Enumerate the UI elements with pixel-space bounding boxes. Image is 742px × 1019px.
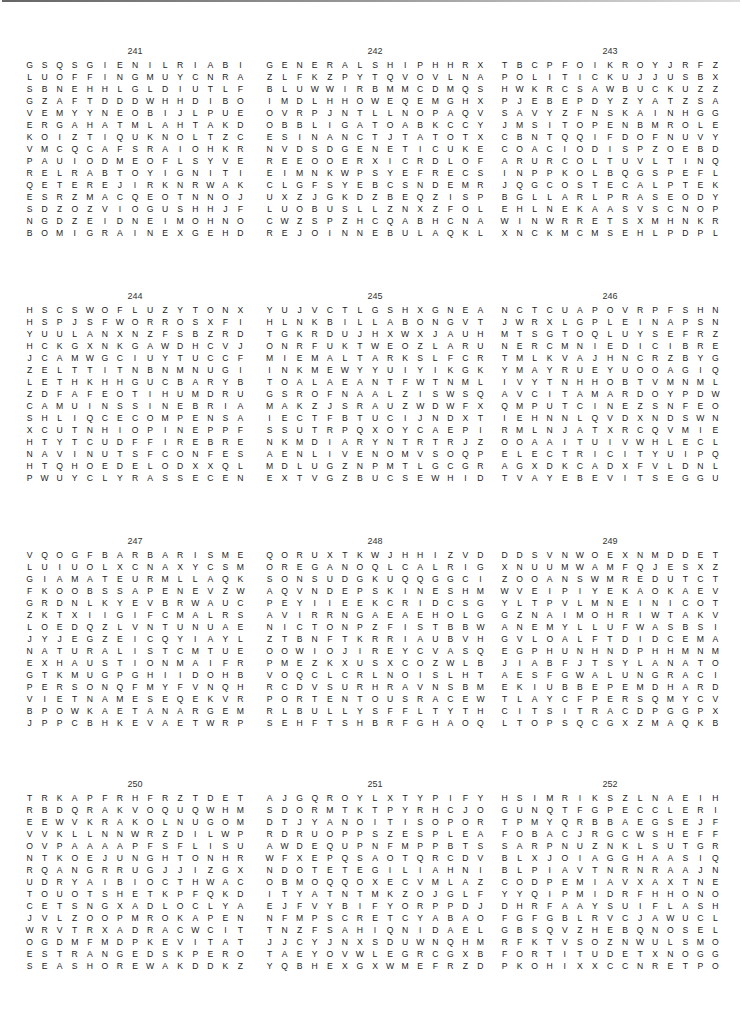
grid-letter: E xyxy=(557,876,572,888)
grid-letter: P xyxy=(557,585,572,597)
grid-letter: Z xyxy=(473,876,488,888)
grid-letter: U xyxy=(618,328,633,340)
grid-letter: T xyxy=(602,155,617,167)
grid-letter: G xyxy=(512,912,527,924)
grid-letter: E xyxy=(458,924,473,936)
grid-letter: U xyxy=(218,645,233,657)
grid-letter: O xyxy=(428,816,443,828)
grid-letter: I xyxy=(262,364,277,376)
grid-letter: I xyxy=(203,840,218,852)
grid-letter: U xyxy=(233,388,248,400)
grid-letter: S xyxy=(218,561,233,573)
grid-letter: I xyxy=(398,59,413,71)
grid-letter: J xyxy=(173,864,188,876)
grid-letter: G xyxy=(22,669,37,681)
grid-letter: L xyxy=(458,609,473,621)
grid-letter: T xyxy=(203,936,218,948)
grid-letter: U xyxy=(173,804,188,816)
grid-letter: Y xyxy=(512,888,527,900)
grid-letter: S xyxy=(277,131,292,143)
grid-letter: V xyxy=(307,900,322,912)
grid-letter: S xyxy=(497,840,512,852)
grid-letter: W xyxy=(473,621,488,633)
grid-letter: Z xyxy=(337,215,352,227)
grid-letter: E xyxy=(22,816,37,828)
grid-letter: F xyxy=(367,900,382,912)
grid-letter: D xyxy=(648,633,663,645)
grid-letter: V xyxy=(37,840,52,852)
grid-letter: M xyxy=(512,119,527,131)
grid-letter: X xyxy=(473,131,488,143)
grid-letter: Z xyxy=(22,388,37,400)
grid-letter: N xyxy=(292,573,307,585)
grid-letter: S xyxy=(648,167,663,179)
grid-letter: I xyxy=(633,597,648,609)
grid-letter: T xyxy=(663,95,678,107)
grid-letter: Z xyxy=(37,95,52,107)
grid-letter: W xyxy=(158,340,173,352)
grid-letter: A xyxy=(527,143,542,155)
grid-letter: I xyxy=(383,864,398,876)
grid-letter: E xyxy=(67,179,82,191)
grid-letter: I xyxy=(557,609,572,621)
grid-letter: U xyxy=(262,191,277,203)
grid-letter: W xyxy=(262,852,277,864)
grid-letter: B xyxy=(542,657,557,669)
grid-letter: L xyxy=(22,621,37,633)
grid-letter: Q xyxy=(37,549,52,561)
grid-letter: G xyxy=(648,669,663,681)
grid-letter: S xyxy=(527,119,542,131)
grid-letter: R xyxy=(173,549,188,561)
grid-letter: Y xyxy=(413,364,428,376)
grid-letter: Q xyxy=(383,215,398,227)
grid-letter: G xyxy=(587,804,602,816)
grid-letter: D xyxy=(458,852,473,864)
grid-letter: J xyxy=(383,131,398,143)
grid-letter: Z xyxy=(82,203,97,215)
grid-letter: Y xyxy=(413,912,428,924)
grid-letter: O xyxy=(708,936,723,948)
grid-letter: R xyxy=(497,424,512,436)
grid-letter: O xyxy=(557,179,572,191)
grid-letter: Y xyxy=(337,179,352,191)
grid-letter: U xyxy=(307,705,322,717)
grid-letter: F xyxy=(497,948,512,960)
grid-letter: I xyxy=(127,657,142,669)
grid-letter: R xyxy=(663,669,678,681)
grid-letter: D xyxy=(203,960,218,972)
grid-letter: E xyxy=(37,364,52,376)
grid-letter: F xyxy=(512,936,527,948)
puzzle-number: 251 xyxy=(262,778,488,790)
grid-letter: M xyxy=(602,561,617,573)
grid-letter: O xyxy=(52,585,67,597)
grid-letter: W xyxy=(143,95,158,107)
grid-letter: Q xyxy=(458,83,473,95)
grid-letter: D xyxy=(602,948,617,960)
grid-letter: C xyxy=(37,352,52,364)
grid-letter: L xyxy=(572,621,587,633)
grid-letter: K xyxy=(233,573,248,585)
grid-letter: L xyxy=(708,924,723,936)
grid-letter: Q xyxy=(648,693,663,705)
grid-letter: G xyxy=(143,864,158,876)
grid-letter: U xyxy=(52,472,67,484)
grid-letter: M xyxy=(383,460,398,472)
grid-letter: R xyxy=(262,681,277,693)
grid-letter: O xyxy=(398,900,413,912)
grid-letter: L xyxy=(443,155,458,167)
grid-letter: O xyxy=(67,585,82,597)
grid-letter: V xyxy=(307,472,322,484)
grid-letter: D xyxy=(428,155,443,167)
grid-letter: Y xyxy=(557,621,572,633)
grid-letter: C xyxy=(262,215,277,227)
grid-letter: P xyxy=(112,669,127,681)
grid-letter: D xyxy=(428,924,443,936)
grid-letter: M xyxy=(97,936,112,948)
grid-letter: I xyxy=(127,645,142,657)
grid-letter: T xyxy=(37,669,52,681)
grid-letter: E xyxy=(398,167,413,179)
grid-letter: C xyxy=(527,388,542,400)
grid-letter: G xyxy=(127,376,142,388)
grid-letter: Q xyxy=(218,460,233,472)
grid-letter: P xyxy=(337,71,352,83)
